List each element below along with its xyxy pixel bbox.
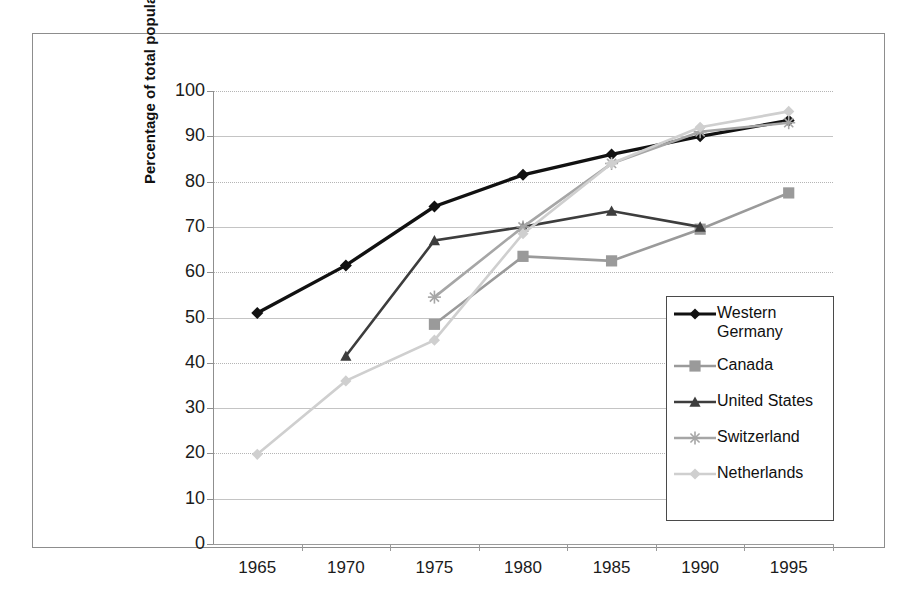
data-point-diamond [783, 106, 794, 117]
data-point-asterisk [782, 116, 795, 129]
legend-key-asterisk-icon [673, 428, 717, 448]
data-point-diamond [689, 308, 700, 319]
data-point-asterisk [428, 291, 441, 304]
chart-frame: Percentage of total population 010203040… [32, 33, 885, 548]
y-tick-mark-80 [207, 182, 213, 183]
y-tick-label-100: 100 [157, 80, 205, 101]
y-tick-label-40: 40 [157, 352, 205, 373]
x-tick-label-1995: 1995 [754, 558, 824, 578]
y-tick-mark-40 [207, 363, 213, 364]
x-tick-label-1975: 1975 [399, 558, 469, 578]
x-tick-label-1990: 1990 [665, 558, 735, 578]
legend-item-canada[interactable]: Canada [667, 355, 833, 391]
x-tick-label-1985: 1985 [577, 558, 647, 578]
legend-label: United States [717, 391, 813, 410]
y-tick-mark-70 [207, 227, 213, 228]
data-point-square [429, 319, 440, 330]
data-point-diamond [689, 468, 700, 479]
legend-label: Switzerland [717, 427, 800, 446]
y-axis [213, 91, 214, 544]
legend-label: Canada [717, 355, 773, 374]
data-point-diamond [517, 169, 529, 181]
data-point-square [689, 360, 700, 371]
data-point-diamond [251, 307, 263, 319]
legend-key-diamond-icon [673, 304, 717, 324]
x-tick-mark-1985 [656, 544, 657, 551]
x-tick-label-1970: 1970 [311, 558, 381, 578]
legend-item-switzerland[interactable]: Switzerland [667, 427, 833, 463]
x-tick-label-1980: 1980 [488, 558, 558, 578]
y-tick-mark-60 [207, 272, 213, 273]
legend-key-triangle-icon [673, 392, 717, 412]
x-tick-mark-1970 [390, 544, 391, 551]
data-point-asterisk [689, 432, 702, 445]
chart-legend: Western GermanyCanadaUnited StatesSwitze… [666, 296, 834, 521]
legend-item-united-states[interactable]: United States [667, 391, 833, 427]
legend-label: Western Germany [717, 303, 783, 341]
data-point-square [783, 187, 794, 198]
x-tick-mark-1975 [479, 544, 480, 551]
legend-key-square-icon [673, 356, 717, 376]
legend-key-diamond-icon [673, 464, 717, 484]
y-tick-mark-10 [207, 499, 213, 500]
legend-item-western-germany[interactable]: Western Germany [667, 303, 833, 355]
y-tick-label-70: 70 [157, 216, 205, 237]
legend-label: Netherlands [717, 463, 803, 482]
legend-item-netherlands[interactable]: Netherlands [667, 463, 833, 499]
chart-page: Percentage of total population 010203040… [0, 0, 914, 612]
y-tick-label-50: 50 [157, 307, 205, 328]
x-tick-mark-1965 [302, 544, 303, 551]
y-tick-label-20: 20 [157, 442, 205, 463]
y-tick-label-60: 60 [157, 261, 205, 282]
series-line [257, 120, 788, 313]
y-tick-label-90: 90 [157, 125, 205, 146]
x-tick-mark-1995 [833, 544, 834, 551]
data-point-square [517, 251, 528, 262]
y-axis-title: Percentage of total population [141, 0, 158, 184]
y-tick-mark-90 [207, 136, 213, 137]
x-tick-label-1965: 1965 [222, 558, 292, 578]
y-tick-label-80: 80 [157, 171, 205, 192]
y-tick-label-10: 10 [157, 488, 205, 509]
y-tick-mark-20 [207, 453, 213, 454]
y-tick-label-0: 0 [157, 533, 205, 554]
x-tick-mark-1990 [744, 544, 745, 551]
y-tick-label-30: 30 [157, 397, 205, 418]
y-tick-mark-100 [207, 91, 213, 92]
series-western-germany [251, 114, 794, 319]
x-tick-mark-1980 [567, 544, 568, 551]
y-tick-mark-50 [207, 318, 213, 319]
data-point-square [606, 255, 617, 266]
y-tick-mark-0 [207, 544, 213, 545]
y-tick-mark-30 [207, 408, 213, 409]
x-axis [213, 544, 833, 545]
